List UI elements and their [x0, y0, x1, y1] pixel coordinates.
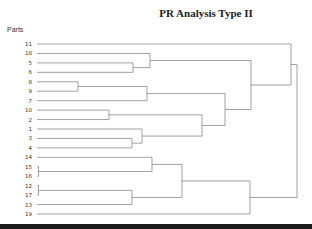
dendrogram-plot	[0, 0, 312, 229]
bottom-border	[0, 224, 312, 229]
